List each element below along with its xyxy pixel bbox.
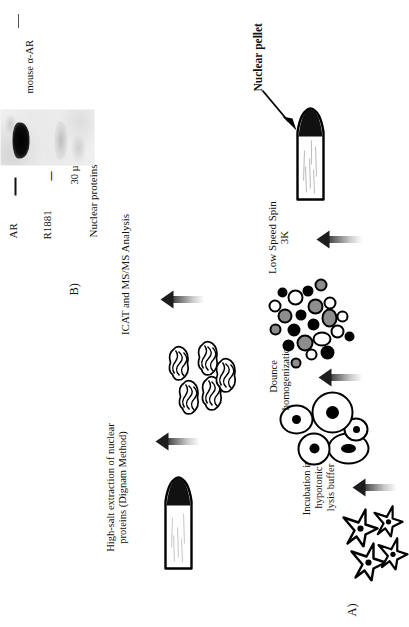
- organelle-particle: [302, 285, 313, 296]
- ar-position-dash: [14, 177, 16, 195]
- nucleus-icon: [297, 432, 330, 465]
- organelle-particle: [344, 331, 354, 341]
- panel-a-tag: A): [344, 603, 358, 616]
- chromatin-blob-icon: [166, 343, 191, 383]
- organelle-particle: [305, 348, 317, 360]
- caption-high-salt-extraction: High-salt extraction of nuclear proteins…: [104, 413, 128, 561]
- arrow-homogenization: [318, 368, 362, 386]
- centrifuge-tube-extract: [161, 475, 195, 571]
- western-blot-image: [0, 109, 94, 165]
- cell-star-icon: [376, 536, 409, 570]
- arrow-low-speed-spin: [316, 230, 362, 248]
- organelle-particle: [307, 298, 323, 314]
- arrow-icat-analysis: [160, 290, 204, 308]
- organelle-particle: [320, 345, 334, 359]
- organelle-particle: [295, 309, 306, 320]
- label-r1881: R1881: [40, 210, 52, 239]
- nucleus-icon: [311, 391, 353, 433]
- arrow-lysis: [352, 478, 396, 496]
- pellet-pointer-arrow: [258, 86, 300, 134]
- organelle-particle: [268, 299, 281, 312]
- organelle-particle: [287, 323, 300, 336]
- band-lane-2: [54, 121, 67, 159]
- organelle-particle: [323, 296, 336, 309]
- cell-star-icon: [372, 504, 404, 537]
- label-nuclear-proteins: Nuclear proteins: [86, 164, 98, 237]
- band-lane-1: [12, 122, 29, 158]
- label-ar: AR: [6, 223, 18, 238]
- organelle-particle: [287, 289, 303, 305]
- organelle-particle: [282, 339, 294, 351]
- lane-1-treatment: –: [40, 171, 58, 180]
- page-edge-rule: [18, 14, 19, 28]
- organelle-particle: [277, 287, 287, 297]
- arrow-high-salt-extraction: [155, 432, 199, 450]
- caption-icat-analysis: ICAT and MS/MS Analysis: [118, 209, 130, 339]
- label-antibody: mouse α-AR: [23, 39, 35, 93]
- organelle-particle: [290, 357, 301, 368]
- panel-b-tag: B): [66, 283, 80, 296]
- organelle-particle: [307, 318, 319, 330]
- organelle-particle: [312, 331, 331, 346]
- caption-low-speed-spin: Low Speed Spin 3K: [265, 199, 290, 275]
- organelle-particle: [314, 278, 327, 291]
- organelle-particle: [269, 323, 281, 335]
- organelle-particle: [336, 310, 348, 322]
- chromatin-blob-icon: [213, 355, 238, 395]
- organelle-particle: [330, 324, 344, 338]
- label-nuclear-pellet: Nuclear pellet: [251, 23, 264, 91]
